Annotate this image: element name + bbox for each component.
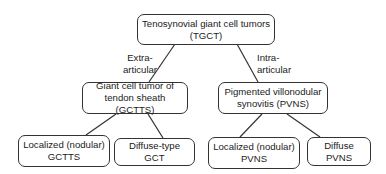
edge-label-intra-articular: Intra- articular bbox=[257, 52, 297, 76]
node-tgct: Tenosynovial giant cell tumors (TGCT) bbox=[137, 14, 275, 45]
node-diffuse-pvns-line1: Diffuse PVNS bbox=[311, 140, 367, 164]
connector-gctts-diffuse bbox=[148, 114, 163, 138]
edge-label-left-line1: Extra- bbox=[120, 52, 160, 64]
node-localized-pvns: Localized (nodular) PVNS bbox=[208, 137, 300, 169]
edge-label-left-line2: articular bbox=[120, 64, 160, 76]
tgct-classification-diagram: Tenosynovial giant cell tumors (TGCT) Ex… bbox=[0, 0, 386, 174]
node-localized-pvns-line1: Localized (nodular) bbox=[213, 141, 295, 153]
node-pvns-line1: Pigmented villonodular bbox=[224, 86, 321, 98]
node-localized-gctts: Localized (nodular) GCTTS bbox=[18, 135, 110, 167]
edge-label-extra-articular: Extra- articular bbox=[120, 52, 160, 76]
connector-root-pvns bbox=[237, 44, 258, 82]
connector-pvns-diffuse bbox=[287, 114, 320, 137]
connector-pvns-localized bbox=[240, 114, 262, 137]
node-tgct-line2: (TGCT) bbox=[142, 30, 270, 42]
connector-gctts-localized bbox=[86, 114, 116, 135]
edge-label-right-line1: Intra- bbox=[257, 52, 297, 64]
node-localized-pvns-line2: PVNS bbox=[213, 153, 295, 165]
node-diffuse-gct-line1: Diffuse-type GCT bbox=[118, 140, 191, 164]
node-tgct-line1: Tenosynovial giant cell tumors bbox=[142, 18, 270, 30]
node-localized-gctts-line1: Localized (nodular) bbox=[23, 139, 105, 151]
node-pvns-line2: synovitis (PVNS) bbox=[224, 98, 321, 110]
edge-label-right-line2: articular bbox=[257, 64, 297, 76]
node-gctts-line2: tendon sheath (GCTTS) bbox=[86, 92, 184, 116]
node-diffuse-pvns: Diffuse PVNS bbox=[307, 137, 371, 166]
node-gctts-line1: Giant cell tumor of bbox=[86, 80, 184, 92]
node-localized-gctts-line2: GCTTS bbox=[23, 151, 105, 163]
node-diffuse-gct: Diffuse-type GCT bbox=[114, 138, 195, 166]
node-pvns: Pigmented villonodular synovitis (PVNS) bbox=[218, 82, 328, 114]
node-gctts: Giant cell tumor of tendon sheath (GCTTS… bbox=[82, 82, 188, 114]
